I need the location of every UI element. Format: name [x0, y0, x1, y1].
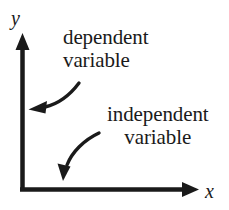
dependent-variable-label: dependent variable	[63, 26, 148, 72]
independent-variable-label: independent variable	[107, 103, 209, 149]
dependent-curved-arrow-icon	[29, 83, 80, 114]
independent-curved-arrow-icon	[58, 133, 100, 181]
dependent-variable-label-line1: dependent	[63, 26, 148, 49]
x-axis-arrow-icon	[20, 182, 199, 197]
y-axis-arrow-icon	[16, 33, 30, 190]
y-axis-label: y	[11, 8, 20, 28]
dependent-variable-label-line2: variable	[63, 49, 148, 72]
axis-variable-labels-diagram: y x dependent variable independent varia…	[0, 0, 229, 210]
x-axis-label: x	[205, 181, 214, 201]
independent-variable-label-line2: variable	[107, 126, 209, 149]
independent-variable-label-line1: independent	[107, 103, 209, 126]
